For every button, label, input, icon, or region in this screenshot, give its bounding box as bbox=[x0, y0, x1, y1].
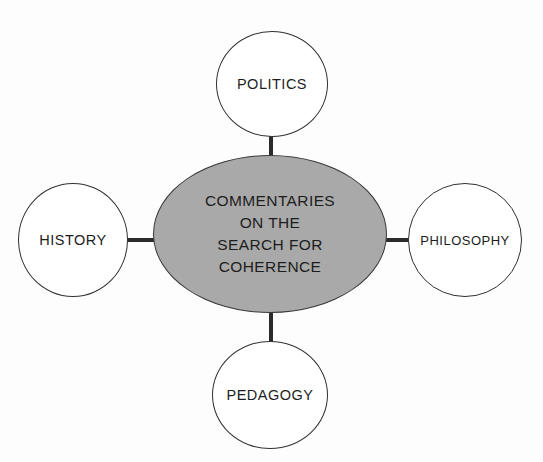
node-politics-label: POLITICS bbox=[237, 76, 307, 92]
node-pedagogy-label: PEDAGOGY bbox=[227, 387, 314, 403]
central-node-label: COMMENTARIES ON THE SEARCH FOR COHERENCE bbox=[205, 190, 335, 278]
node-pedagogy: PEDAGOGY bbox=[212, 341, 328, 449]
diagram-canvas: COMMENTARIES ON THE SEARCH FOR COHERENCE… bbox=[0, 0, 543, 462]
node-philosophy-label: PHILOSOPHY bbox=[420, 233, 510, 248]
node-history: HISTORY bbox=[18, 183, 128, 297]
central-node-commentaries: COMMENTARIES ON THE SEARCH FOR COHERENCE bbox=[153, 155, 387, 313]
node-philosophy: PHILOSOPHY bbox=[408, 183, 522, 297]
node-politics: POLITICS bbox=[216, 31, 328, 137]
node-history-label: HISTORY bbox=[39, 232, 106, 248]
